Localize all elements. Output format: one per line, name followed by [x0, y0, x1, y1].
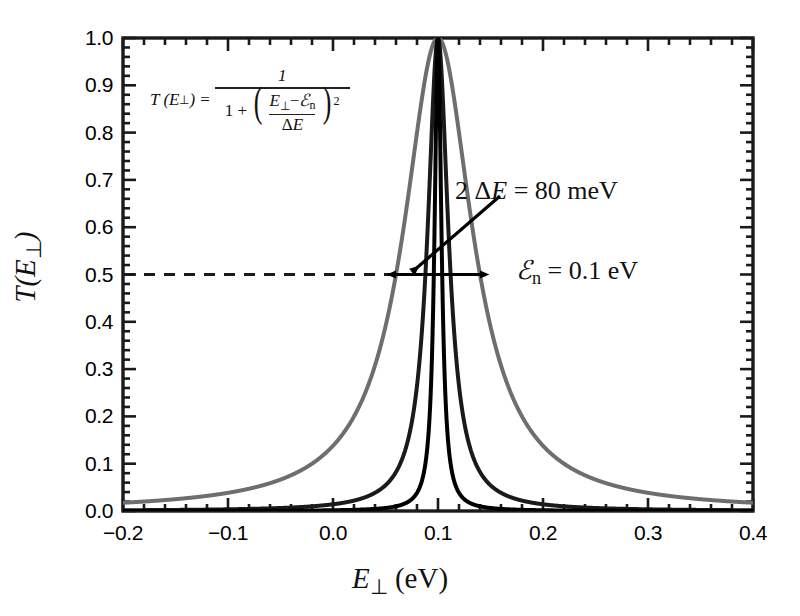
- width-leader-arrow: [412, 196, 500, 272]
- y-axis-title-symbol: T(E: [9, 259, 41, 303]
- x-tick-label: 0.1: [398, 521, 478, 545]
- y-tick-label: 0.0: [51, 499, 113, 523]
- formula-inner-numerator: E⊥−ℰn: [269, 90, 315, 114]
- width-annotation-prefix: 2: [455, 176, 468, 205]
- x-tick-label: −0.2: [83, 521, 163, 545]
- formula-delta-E: E: [293, 115, 303, 134]
- y-tick-label: 0.4: [51, 310, 113, 334]
- resonance-annotation-symbol: ℰ: [516, 256, 532, 285]
- formula-inner-E: E: [269, 91, 279, 110]
- x-tick-label: −0.1: [188, 521, 268, 545]
- width-annotation-label: 2 ΔE = 80 meV: [455, 176, 618, 206]
- formula-delta: Δ: [282, 115, 293, 134]
- formula-equals: =: [200, 90, 210, 110]
- y-tick-label: 1.0: [51, 26, 113, 50]
- y-tick-label: 0.7: [51, 168, 113, 192]
- formula-inner-minus: −: [290, 91, 300, 110]
- width-annotation-E: E: [491, 176, 507, 205]
- x-axis-title-unit: (eV): [395, 562, 448, 594]
- y-axis-title-tail: ): [9, 232, 41, 242]
- x-tick-label: 0.4: [713, 521, 793, 545]
- formula-one-plus: 1 +: [225, 101, 247, 120]
- width-annotation-value: = 80 meV: [514, 176, 618, 205]
- formula-close-paren: ): [322, 90, 331, 116]
- formula-inner-fraction: E⊥−ℰn ΔE: [269, 90, 315, 135]
- transmission-formula: T (E⊥) = 1 1 + ( E⊥−ℰn ΔE )2: [150, 66, 350, 135]
- formula-lhs: T (E: [150, 90, 179, 110]
- width-annotation-delta: Δ: [475, 176, 492, 205]
- y-axis-title: T(E⊥): [9, 147, 47, 387]
- y-tick-label: 0.8: [51, 121, 113, 145]
- formula-denominator: 1 + ( E⊥−ℰn ΔE )2: [215, 89, 350, 135]
- figure-canvas: 0.00.10.20.30.40.50.60.70.80.91.0 −0.2−0…: [0, 0, 800, 616]
- resonance-annotation-subscript: n: [532, 268, 541, 288]
- resonance-annotation-value: = 0.1 eV: [548, 256, 638, 285]
- formula-lhs-close: ): [189, 90, 195, 110]
- y-tick-label: 0.9: [51, 73, 113, 97]
- resonance-annotation-label: ℰn = 0.1 eV: [516, 255, 638, 289]
- y-tick-label: 0.2: [51, 404, 113, 428]
- formula-inner-script-E-subscript: n: [309, 98, 315, 112]
- y-tick-label: 0.6: [51, 215, 113, 239]
- formula-open-paren: (: [254, 90, 263, 116]
- y-tick-label: 0.1: [51, 452, 113, 476]
- formula-numerator: 1: [268, 66, 297, 87]
- formula-lhs-subscript: ⊥: [179, 93, 189, 108]
- formula-inner-script-E: ℰ: [299, 91, 309, 110]
- formula-inner-denominator: ΔE: [282, 115, 303, 135]
- x-tick-label: 0.0: [293, 521, 373, 545]
- x-axis-title: E⊥ (eV): [0, 562, 800, 600]
- x-tick-label: 0.2: [503, 521, 583, 545]
- formula-exponent: 2: [334, 94, 340, 108]
- y-axis-title-subscript: ⊥: [22, 241, 46, 259]
- formula-main-fraction: 1 1 + ( E⊥−ℰn ΔE )2: [215, 66, 350, 135]
- y-tick-label: 0.3: [51, 357, 113, 381]
- formula-inner-E-subscript: ⊥: [280, 99, 290, 113]
- x-axis-title-symbol: E: [352, 562, 370, 594]
- x-axis-title-subscript: ⊥: [370, 575, 388, 599]
- x-tick-label: 0.3: [608, 521, 688, 545]
- y-tick-label: 0.5: [51, 263, 113, 287]
